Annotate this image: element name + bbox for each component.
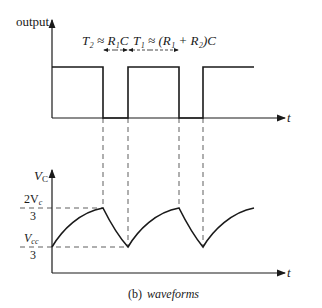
lower-threshold-label: Vcc 3 [24, 231, 39, 262]
waveform-diagram: output t T₂ ≈ R₁C T₁ ≈ (R₁ + R₂)C VC t [0, 0, 322, 308]
output-axis-label: output [16, 14, 50, 29]
alignment-guides [103, 118, 203, 247]
vc-t-label: t [287, 265, 291, 280]
capacitor-voltage-plot: VC t 2Vc 3 Vcc 3 [20, 168, 291, 280]
output-t-label: t [287, 110, 291, 125]
output-plot: output t T₂ ≈ R₁C T₁ ≈ (R₁ + R₂)C [16, 14, 291, 125]
svg-text:3: 3 [30, 209, 36, 223]
annotation-t2: T₂ ≈ R₁C [82, 33, 129, 48]
square-wave [52, 67, 254, 118]
svg-text:2Vc: 2Vc [24, 192, 43, 207]
svg-text:Vcc: Vcc [24, 231, 39, 246]
figure-caption: (b)waveforms [128, 287, 199, 301]
annotation-t1: T₁ ≈ (R₁ + R₂)C [133, 33, 216, 48]
vc-axis-label: VC [34, 168, 48, 184]
upper-threshold-label: 2Vc 3 [24, 192, 43, 223]
capacitor-voltage-curve [52, 208, 254, 247]
svg-text:3: 3 [30, 248, 36, 262]
